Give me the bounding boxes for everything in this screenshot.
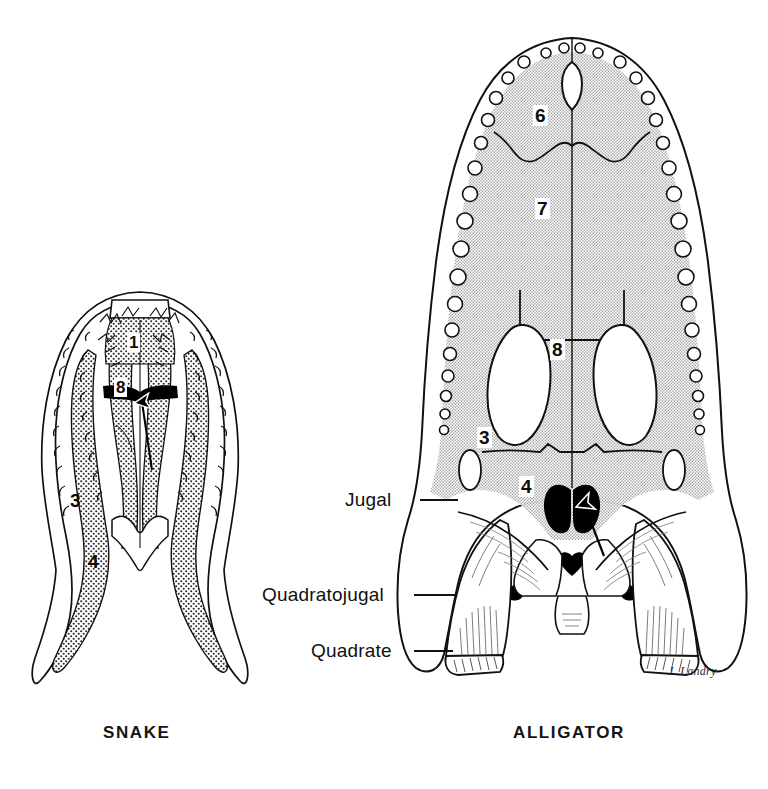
alligator-orbit-right xyxy=(663,450,685,490)
label-jugal: Jugal xyxy=(345,489,391,511)
alligator-basioccipital xyxy=(555,596,589,634)
caption-snake: SNAKE xyxy=(103,723,171,743)
alligator-bone-number-4: 4 xyxy=(519,476,534,497)
snake-premaxilla xyxy=(110,300,170,318)
alligator-premax-tooth-left xyxy=(559,43,569,53)
alligator-bone-number-6: 6 xyxy=(533,105,548,126)
comparative-skull-plate: SNAKE ALLIGATOR Jugal Quadratojugal Quad… xyxy=(0,0,768,789)
snake-bone-number-4: 4 xyxy=(86,551,101,572)
label-quadrate: Quadrate xyxy=(311,640,392,662)
alligator-bone-number-3: 3 xyxy=(477,427,492,448)
snake-bone-number-3: 3 xyxy=(68,490,83,511)
label-quadratojugal: Quadratojugal xyxy=(262,584,384,606)
alligator-bone-number-7: 7 xyxy=(535,198,550,219)
alligator-bone-number-8: 8 xyxy=(550,339,565,360)
snake-bone-number-1: 1 xyxy=(127,333,140,352)
alligator-orbit-left xyxy=(459,450,481,490)
artist-signature: J. Landry xyxy=(668,664,717,679)
caption-alligator: ALLIGATOR xyxy=(513,723,625,743)
alligator-premax-tooth-right xyxy=(575,43,585,53)
snake-bone-number-8: 8 xyxy=(114,378,127,397)
